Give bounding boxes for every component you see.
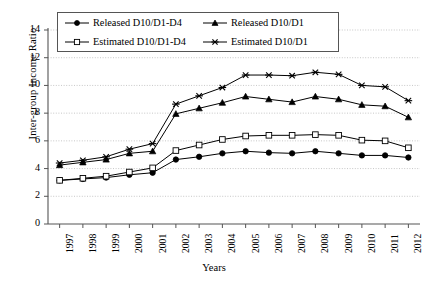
data-point	[289, 151, 294, 156]
open-square-icon	[64, 36, 90, 48]
data-point	[103, 173, 109, 179]
filled-triangle-icon	[202, 17, 228, 29]
data-point	[243, 149, 248, 154]
data-point	[266, 150, 271, 155]
data-point	[150, 165, 156, 171]
data-point	[243, 133, 249, 139]
data-point	[173, 148, 179, 154]
data-point	[220, 151, 225, 156]
series-line	[60, 151, 409, 180]
series-4	[56, 70, 412, 166]
data-point	[80, 175, 86, 181]
data-point	[266, 133, 272, 139]
series-line	[60, 72, 409, 163]
legend-label: Released D10/D1	[231, 17, 304, 28]
data-point	[196, 142, 202, 148]
data-point	[406, 155, 411, 160]
data-point	[57, 178, 63, 184]
data-point	[75, 20, 80, 25]
data-point	[220, 137, 226, 143]
data-point	[336, 133, 342, 139]
data-point	[382, 153, 387, 158]
legend-label: Estimated D10/D1-D4	[93, 36, 186, 47]
data-point	[336, 151, 341, 156]
data-point	[149, 148, 155, 154]
data-point	[173, 157, 178, 162]
series-3	[57, 132, 411, 183]
data-point	[382, 138, 388, 144]
data-point	[196, 154, 201, 159]
filled-circle-icon	[64, 17, 90, 29]
data-point	[405, 114, 411, 120]
data-point	[406, 145, 412, 151]
legend-item-0[interactable]: Released D10/D1-D4	[60, 17, 198, 29]
data-point	[359, 153, 364, 158]
data-point	[313, 149, 318, 154]
series-1	[57, 149, 411, 184]
data-point	[359, 137, 365, 143]
data-point	[289, 133, 295, 139]
data-point	[127, 169, 133, 175]
data-point	[312, 93, 318, 99]
legend-label: Released D10/D1-D4	[93, 17, 182, 28]
asterisk-icon	[202, 36, 228, 48]
legend-label: Estimated D10/D1	[231, 36, 308, 47]
data-point	[242, 93, 248, 99]
data-point	[74, 39, 79, 44]
legend-item-3[interactable]: Estimated D10/D1	[198, 36, 336, 48]
data-point	[313, 132, 319, 138]
chart-legend: Released D10/D1-D4Released D10/D1Estimat…	[57, 12, 339, 52]
legend-item-2[interactable]: Estimated D10/D1-D4	[60, 36, 198, 48]
legend-item-1[interactable]: Released D10/D1	[198, 17, 336, 29]
chart-container: Inter-group Income Ratio Years 024681012…	[0, 0, 428, 283]
series-line	[60, 135, 409, 181]
